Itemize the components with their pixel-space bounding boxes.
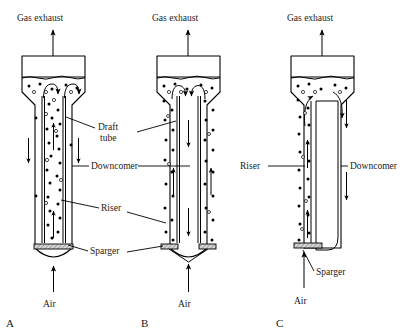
riser-top-arrow-c (304, 96, 313, 126)
sparger-hatch-a (34, 244, 73, 249)
gas-exhaust-label-c: Gas exhaust (287, 13, 334, 23)
panel-letter-c: C (276, 317, 283, 329)
sparger-leader-b (127, 246, 163, 252)
draft-tube-leader-a (66, 117, 95, 128)
draft-tube-label-line1: Draft (98, 122, 118, 132)
figure-canvas: Gas exhaust (0, 0, 407, 333)
panel-letter-a: A (6, 317, 14, 329)
sparger-hatch-b-left (161, 244, 178, 249)
riser-leader-a (61, 200, 99, 208)
draft-tube-label-line2: tube (100, 133, 116, 143)
air-label-a: Air (43, 299, 57, 309)
riser-label-ab: Riser (101, 203, 122, 213)
gas-exhaust-label-b: Gas exhaust (152, 13, 199, 23)
panel-a: Gas exhaust (6, 13, 85, 329)
downcomer-label-ab: Downcomer (91, 161, 139, 171)
air-distribution-v-b (169, 249, 208, 262)
sparger-hatch-c (294, 243, 322, 248)
gas-exhaust-label-a: Gas exhaust (17, 13, 64, 23)
sparger-leader-c (303, 250, 314, 271)
center-labels: Draft tube Downcomer Riser Sparger Riser… (61, 117, 398, 277)
downcomer-label-c: Downcomer (350, 161, 398, 171)
sparger-label-c: Sparger (316, 267, 346, 277)
riser-label-c: Riser (240, 161, 261, 171)
air-label-c: Air (294, 296, 308, 306)
air-label-b: Air (178, 299, 192, 309)
riser-leader-b (127, 212, 166, 223)
panel-c: Gas exhaust (276, 13, 354, 329)
sparger-label-ab: Sparger (90, 246, 120, 256)
panel-letter-b: B (141, 317, 148, 329)
baffle-box-c (316, 101, 338, 250)
sparger-hatch-b-right (199, 244, 216, 249)
recirculation-arrow-b-left (172, 86, 186, 99)
airlift-reactor-figure: Gas exhaust (0, 0, 407, 333)
panel-b: Gas exhaust (141, 13, 220, 329)
